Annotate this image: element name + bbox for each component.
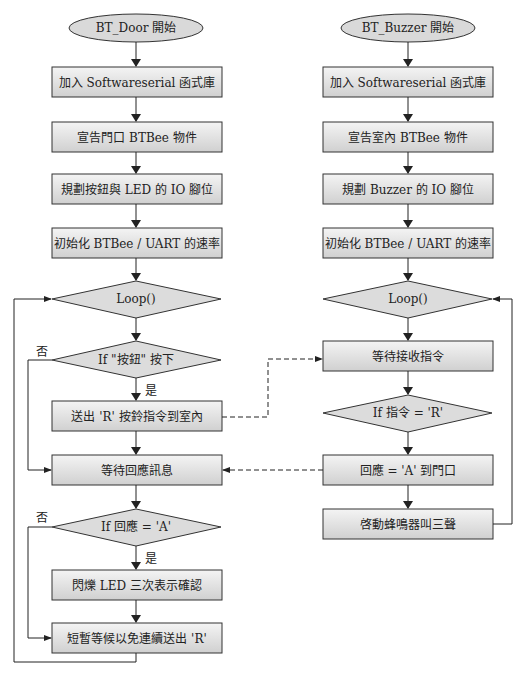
svg-text:加入 Softwareserial 函式庫: 加入 Softwareserial 函式庫	[330, 76, 486, 90]
svg-text:Loop(): Loop()	[388, 292, 427, 306]
svg-text:規劃 Buzzer 的 IO 腳位: 規劃 Buzzer 的 IO 腳位	[342, 182, 474, 197]
cross-links	[222, 359, 323, 470]
svg-text:規劃按鈕與 LED 的 IO 腳位: 規劃按鈕與 LED 的 IO 腳位	[61, 182, 213, 197]
svg-text:回應 = 'A' 到門口: 回應 = 'A' 到門口	[360, 463, 457, 478]
svg-text:初始化 BTBee / UART 的速率: 初始化 BTBee / UART 的速率	[54, 236, 220, 251]
step-send-r: 送出 'R' 按鈴指令到室內	[52, 401, 222, 431]
step-plan-io-buzzer: 規劃 Buzzer 的 IO 腳位	[323, 174, 493, 204]
svg-text:送出 'R' 按鈴指令到室內: 送出 'R' 按鈴指令到室內	[71, 409, 202, 424]
step-add-library-door: 加入 Softwareserial 函式庫	[52, 67, 222, 97]
reply-a-decision: If 回應 = 'A'	[52, 509, 221, 546]
step-plan-io-door: 規劃按鈕與 LED 的 IO 腳位	[52, 174, 222, 204]
start-node-buzzer: BT_Buzzer 開始	[341, 14, 475, 42]
start-node-door: BT_Door 開始	[69, 14, 203, 42]
step-init-uart-door: 初始化 BTBee / UART 的速率	[52, 228, 222, 258]
step-short-delay: 短暫等候以免連續送出 'R'	[52, 623, 222, 653]
loop-decision-buzzer: Loop()	[323, 281, 492, 318]
svg-text:等待接收指令: 等待接收指令	[372, 349, 444, 364]
svg-text:初始化 BTBee / UART 的速率: 初始化 BTBee / UART 的速率	[325, 236, 491, 251]
svg-text:Loop(): Loop()	[116, 292, 155, 306]
dashed-link-send-to-wait-cmd	[222, 359, 322, 417]
step-flash-led: 閃爍 LED 三次表示確認	[52, 570, 222, 600]
svg-text:加入 Softwareserial 函式庫: 加入 Softwareserial 函式庫	[59, 76, 215, 90]
svg-text:If 回應 = 'A': If 回應 = 'A'	[101, 519, 171, 534]
step-reply-a: 回應 = 'A' 到門口	[323, 455, 493, 485]
step-declare-btbee-door: 宣告門口 BTBee 物件	[52, 122, 222, 152]
yes-label-2: 是	[145, 552, 157, 566]
svg-text:啓動蜂鳴器叫三聲: 啓動蜂鳴器叫三聲	[360, 517, 456, 532]
yes-label-1: 是	[145, 384, 157, 398]
step-add-library-buzzer: 加入 Softwareserial 函式庫	[323, 67, 493, 97]
flowchart-canvas: BT_Door 開始 加入 Softwareserial 函式庫 宣告門口 BT…	[0, 0, 523, 673]
step-wait-reply: 等待回應訊息	[52, 455, 222, 485]
step-wait-command: 等待接收指令	[323, 341, 493, 371]
svg-text:BT_Buzzer 開始: BT_Buzzer 開始	[362, 21, 455, 35]
right-flow: BT_Buzzer 開始 加入 Softwareserial 函式庫 宣告室內 …	[323, 14, 512, 539]
svg-text:閃爍 LED 三次表示確認: 閃爍 LED 三次表示確認	[72, 578, 202, 593]
svg-text:短暫等候以免連續送出 'R': 短暫等候以免連續送出 'R'	[67, 631, 206, 646]
step-init-uart-buzzer: 初始化 BTBee / UART 的速率	[323, 228, 493, 258]
command-r-decision: If 指令 = 'R'	[323, 395, 492, 432]
step-declare-btbee-buzzer: 宣告室內 BTBee 物件	[323, 122, 493, 152]
svg-text:If "按鈕" 按下: If "按鈕" 按下	[98, 353, 174, 367]
svg-text:BT_Door 開始: BT_Door 開始	[96, 21, 176, 35]
svg-text:等待回應訊息: 等待回應訊息	[101, 463, 173, 478]
no-label-1: 否	[36, 345, 48, 359]
loop-decision-door: Loop()	[52, 281, 221, 318]
no-label-2: 否	[36, 511, 48, 525]
button-pressed-decision: If "按鈕" 按下	[52, 341, 221, 378]
svg-text:宣告室內 BTBee 物件: 宣告室內 BTBee 物件	[348, 130, 467, 145]
left-flow: BT_Door 開始 加入 Softwareserial 函式庫 宣告門口 BT…	[14, 14, 222, 662]
step-activate-buzzer: 啓動蜂鳴器叫三聲	[323, 509, 493, 539]
svg-text:If 指令 = 'R': If 指令 = 'R'	[373, 405, 443, 420]
svg-text:宣告門口 BTBee 物件: 宣告門口 BTBee 物件	[77, 130, 196, 145]
